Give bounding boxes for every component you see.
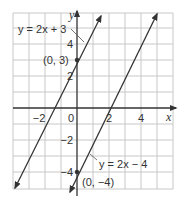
tick-y-neg4: −4 (60, 166, 73, 178)
point-1-label: (0, 3) (43, 54, 69, 66)
point-2-label: (0, −4) (82, 176, 114, 188)
tick-x-neg2: −2 (33, 112, 46, 124)
tick-y-neg2: −2 (60, 134, 73, 146)
point-0-3 (75, 58, 79, 62)
grid (13, 13, 173, 189)
tick-y-4: 4 (67, 38, 73, 50)
point-0-neg4 (75, 170, 79, 174)
equation-2-label: y = 2x − 4 (99, 158, 147, 170)
x-axis-label: x (165, 110, 172, 124)
tick-y-2: 2 (67, 70, 73, 82)
tick-x-4: 4 (138, 112, 144, 124)
tick-x-2: 2 (106, 112, 112, 124)
equation-1-label: y = 2x + 3 (18, 23, 66, 35)
coordinate-plane: −2 0 2 4 4 2 −2 −4 x y y = 2x + 3 (0, 3)… (0, 0, 185, 204)
line-y-2x-plus-3 (15, 16, 101, 188)
tick-x-0: 0 (68, 112, 74, 124)
y-axis-label: y (68, 8, 75, 22)
